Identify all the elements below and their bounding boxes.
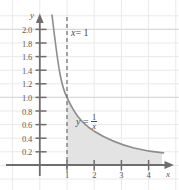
x-tick-label-4: 4 xyxy=(140,170,158,180)
y-tick-label-0-4: 0.4 xyxy=(8,134,32,144)
x-tick-label-1: 1 xyxy=(58,170,76,180)
y-axis-label: y xyxy=(30,10,34,20)
annotation-x-equals-1-rhs: = 1 xyxy=(75,27,88,38)
annotation-x-equals-1: x= 1 xyxy=(71,27,89,38)
y-tick-label-2-0: 2.0 xyxy=(8,25,32,35)
y-tick-label-0-6: 0.6 xyxy=(8,120,32,130)
y-axis-arrow-icon xyxy=(36,14,44,24)
y-tick-label-1-4: 1.4 xyxy=(8,66,32,76)
y-axis-ticks xyxy=(36,29,47,151)
y-tick-label-1-6: 1.6 xyxy=(8,52,32,62)
x-tick-label-2: 2 xyxy=(85,170,103,180)
y-tick-label-0-8: 0.8 xyxy=(8,107,32,117)
annotation-curve-lhs: y xyxy=(76,116,80,127)
x-axis-label: x xyxy=(166,169,170,179)
y-tick-label-0-2: 0.2 xyxy=(8,147,32,157)
x-tick-label-3: 3 xyxy=(112,170,130,180)
y-tick-label-1-8: 1.8 xyxy=(8,39,32,49)
fraction-numerator: 1 xyxy=(91,113,97,122)
x-axis-arrow-icon xyxy=(165,161,175,169)
y-tick-label-1-0: 1.0 xyxy=(8,93,32,103)
y-tick-label-1-2: 1.2 xyxy=(8,79,32,89)
annotation-y-equals-1-over-x: y = 1 x xyxy=(76,113,97,132)
fraction-denominator: x xyxy=(91,121,97,131)
graph-figure: 2.0 1.8 1.6 1.4 1.2 1.0 0.8 0.6 0.4 0.2 … xyxy=(0,0,179,190)
annotation-curve-equals: = xyxy=(83,116,89,127)
fraction-one-over-x: 1 x xyxy=(91,113,97,132)
